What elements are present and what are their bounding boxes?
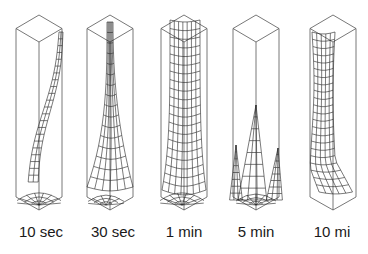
panel-label-5-min: 5 min — [221, 223, 291, 240]
panel-label-10-mi: 10 mi — [297, 223, 367, 240]
panel-label-30-sec: 30 sec — [78, 223, 148, 240]
mesh-surface — [160, 20, 206, 205]
mesh-surface — [17, 32, 63, 205]
figure-canvas — [0, 0, 368, 254]
panel-0 — [16, 15, 63, 210]
mesh-surface — [310, 32, 352, 194]
panel-4 — [310, 15, 356, 210]
panel-label-10-sec: 10 sec — [6, 223, 76, 240]
panel-1 — [87, 15, 133, 210]
panel-2 — [160, 15, 207, 210]
mesh-evolution-figure: 10 sec 30 sec 1 min 5 min 10 mi — [0, 0, 368, 254]
panel-label-1-min: 1 min — [149, 223, 219, 240]
wireframe-box — [16, 15, 62, 210]
panel-3 — [230, 15, 283, 210]
